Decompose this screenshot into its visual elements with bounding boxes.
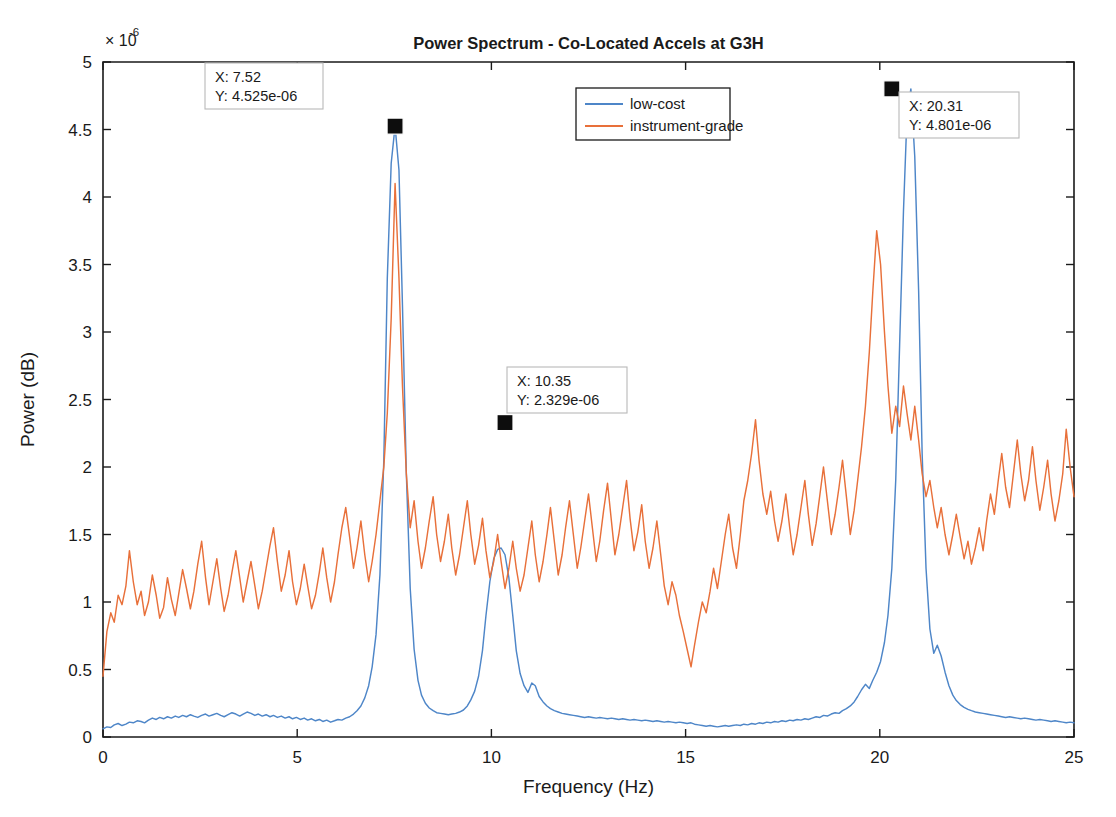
datatip-peak-2-marker[interactable] <box>497 415 513 431</box>
x-tick-label: 10 <box>482 748 501 767</box>
y-tick-label: 4 <box>83 188 92 207</box>
y-tick-label: 2.5 <box>68 391 92 410</box>
datatip-peak-3-x-label: X: 20.31 <box>909 98 963 114</box>
datatip-peak-1-y-label: Y: 4.525e-06 <box>215 88 297 104</box>
figure-container: 051015202500.511.522.533.544.55Frequency… <box>0 0 1116 817</box>
x-tick-label: 15 <box>676 748 695 767</box>
x-tick-label: 0 <box>98 748 107 767</box>
y-tick-label: 3 <box>83 323 92 342</box>
power-spectrum-chart: 051015202500.511.522.533.544.55Frequency… <box>0 0 1116 817</box>
y-tick-label: 2 <box>83 458 92 477</box>
y-tick-label: 3.5 <box>68 256 92 275</box>
x-tick-label: 5 <box>292 748 301 767</box>
x-axis-label: Frequency (Hz) <box>523 776 654 797</box>
x-tick-label: 25 <box>1065 748 1084 767</box>
x-tick-label: 20 <box>870 748 889 767</box>
y-scale-exponent-label: -6 <box>129 26 139 38</box>
y-tick-label: 1.5 <box>68 526 92 545</box>
y-tick-label: 0.5 <box>68 661 92 680</box>
datatip-peak-1-marker[interactable] <box>387 118 403 134</box>
legend-label-low-cost: low-cost <box>630 95 686 112</box>
chart-title: Power Spectrum - Co-Located Accels at G3… <box>413 34 764 52</box>
legend-label-instrument-grade: instrument-grade <box>630 117 743 134</box>
y-tick-label: 1 <box>83 593 92 612</box>
y-tick-label: 0 <box>83 728 92 747</box>
y-tick-label: 5 <box>83 53 92 72</box>
y-tick-label: 4.5 <box>68 121 92 140</box>
datatip-peak-3-y-label: Y: 4.801e-06 <box>909 117 991 133</box>
datatip-peak-2-y-label: Y: 2.329e-06 <box>517 392 599 408</box>
y-axis-label: Power (dB) <box>17 352 38 447</box>
datatip-peak-2-x-label: X: 10.35 <box>517 373 571 389</box>
datatip-peak-3-marker[interactable] <box>884 81 900 97</box>
datatip-peak-1-x-label: X: 7.52 <box>215 69 261 85</box>
